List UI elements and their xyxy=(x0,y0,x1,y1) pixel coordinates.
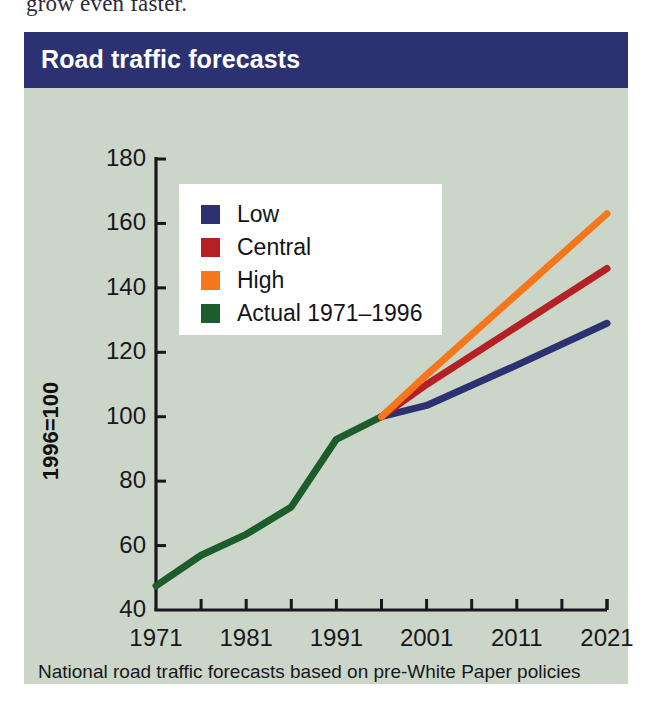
x-tick-label: 1981 xyxy=(201,624,291,652)
legend-item: Low xyxy=(201,198,279,230)
y-tick-label: 40 xyxy=(84,595,146,623)
y-tick-label: 100 xyxy=(84,402,146,430)
figure-title-bar: Road traffic forecasts xyxy=(24,32,628,88)
x-tick-label: 1991 xyxy=(291,624,381,652)
figure-panel: Road traffic forecasts 1996=100 40608010… xyxy=(24,32,628,684)
legend-item: Actual 1971–1996 xyxy=(201,297,422,329)
series-line-actual-1971-1996 xyxy=(156,417,382,586)
y-tick-label: 80 xyxy=(84,466,146,494)
y-tick-label: 180 xyxy=(84,144,146,172)
legend-swatch-icon xyxy=(201,271,220,290)
legend-swatch-icon xyxy=(201,205,220,224)
figure-title: Road traffic forecasts xyxy=(41,45,300,74)
y-tick-label: 160 xyxy=(84,208,146,236)
legend-label: High xyxy=(237,267,284,294)
legend-label: Central xyxy=(237,234,311,261)
x-tick-label: 2021 xyxy=(562,624,647,652)
y-tick-label: 140 xyxy=(84,273,146,301)
y-tick-label: 60 xyxy=(84,531,146,559)
plot-area: 1996=100 406080100120140160180 197119811… xyxy=(24,88,628,684)
x-tick-label: 2011 xyxy=(472,624,562,652)
page-body-text: grow even faster. xyxy=(26,0,187,17)
x-tick-label: 1971 xyxy=(111,624,201,652)
legend-swatch-icon xyxy=(201,304,220,323)
legend-item: Central xyxy=(201,231,311,263)
legend-swatch-icon xyxy=(201,238,220,257)
y-tick-label: 120 xyxy=(84,337,146,365)
legend-label: Low xyxy=(237,201,279,228)
legend-item: High xyxy=(201,264,284,296)
legend-label: Actual 1971–1996 xyxy=(237,300,422,327)
y-axis-title: 1996=100 xyxy=(38,366,64,496)
figure-caption: National road traffic forecasts based on… xyxy=(38,661,580,683)
chart-legend: LowCentralHighActual 1971–1996 xyxy=(179,184,442,335)
x-tick-label: 2001 xyxy=(382,624,472,652)
